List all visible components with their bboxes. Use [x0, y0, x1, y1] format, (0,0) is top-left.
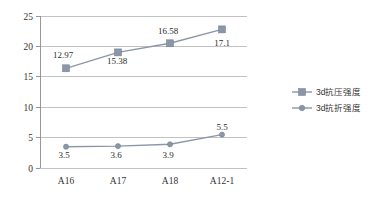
x-tick-label-a16: A16 [58, 176, 75, 186]
marker-compressive-a17 [115, 49, 122, 56]
y-tick-label-0: 0 [28, 164, 33, 174]
data-label-flexural-a17: 3.6 [110, 150, 122, 160]
data-label-flexural-a18: 3.9 [162, 150, 174, 160]
data-label-compressive-a12-1: 17.1 [214, 38, 230, 48]
legend-label-flexural: 3d抗折强度 [316, 103, 361, 113]
data-label-flexural-a16: 3.5 [58, 150, 70, 160]
marker-flexural-a17 [115, 144, 120, 149]
y-tick-label-10: 10 [24, 103, 34, 113]
data-label-compressive-a17: 15.38 [107, 56, 128, 66]
data-label-compressive-a16: 12.97 [53, 50, 74, 60]
x-tick-label-a17: A17 [110, 176, 127, 186]
chart-background [0, 0, 384, 201]
line-chart: 25 20 15 10 5 0 12.97 15.38 16.58 17.1 [0, 0, 384, 201]
chart-container: 25 20 15 10 5 0 12.97 15.38 16.58 17.1 [0, 0, 384, 201]
marker-compressive-a18 [167, 40, 174, 47]
marker-flexural-a18 [167, 142, 172, 147]
y-tick-label-25: 25 [24, 12, 34, 22]
legend-marker-square-icon [299, 89, 306, 96]
x-tick-label-a18: A18 [162, 176, 179, 186]
marker-flexural-a12-1 [219, 132, 224, 137]
marker-compressive-a16 [63, 65, 70, 72]
legend-label-compressive: 3d抗压强度 [316, 87, 361, 97]
y-tick-label-15: 15 [24, 72, 34, 82]
marker-compressive-a12-1 [219, 26, 226, 33]
y-tick-label-5: 5 [28, 133, 33, 143]
legend-marker-circle-icon [299, 105, 305, 111]
marker-flexural-a16 [63, 144, 68, 149]
x-tick-label-a12-1: A12-1 [210, 176, 235, 186]
legend-item-compressive[interactable]: 3d抗压强度 [292, 87, 361, 97]
y-tick-label-20: 20 [24, 42, 34, 52]
data-label-compressive-a18: 16.58 [158, 26, 179, 36]
data-label-flexural-a12-1: 5.5 [216, 122, 228, 132]
